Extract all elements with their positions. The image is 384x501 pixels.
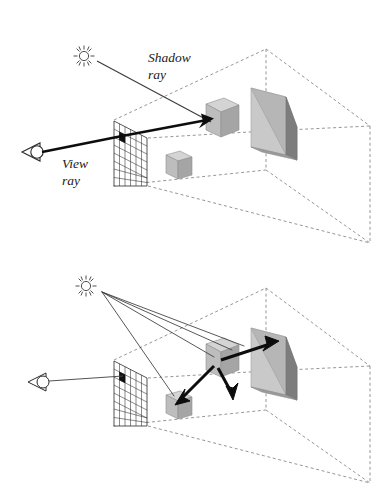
sun-disc [81,281,90,290]
view-ray-label-line2: ray [62,173,80,188]
image-plane-grid [114,361,147,426]
scene-box-dashed [113,288,370,483]
shadow-ray-2-to-cube-large [102,292,232,350]
sun-icon [76,276,97,297]
box-edge-floor-right [266,410,370,483]
wedge-side-face [286,97,297,160]
wedge-side-face [286,337,297,400]
cube-small [166,151,192,179]
panel-global-illumination [0,250,384,501]
box-edge-floor-right [266,170,370,243]
cube-small-right-face [178,157,192,179]
box-edge-top-left [114,288,266,360]
view-ray-line [49,376,123,381]
shadow-ray-3-to-cube-top [102,292,214,357]
shadow-ray-label-line2: ray [148,67,166,82]
eye-icon [22,143,43,161]
eye-icon [28,373,49,391]
box-edge-mid-left [148,131,266,138]
shadow-ray-1-to-wedge [102,292,244,346]
diagram-global-illumination [0,250,384,501]
wedge-prism [251,88,297,160]
sun-rays [76,276,97,297]
box-edge-floor-front [148,426,370,483]
box-edge-floor-front [148,186,370,243]
view-ray-segment-eye-to-plane [42,136,122,152]
bounce-ray-to-cube-small [182,366,214,398]
image-plane-grid [114,121,147,186]
diagram-direct-illumination: Shadow ray View ray [0,0,384,250]
panel-direct-illumination: Shadow ray View ray [0,0,384,250]
eye-pupil [31,146,43,158]
view-ray-segment-plane-to-object [122,120,207,136]
view-ray-label-line1: View [62,156,88,171]
shadow-ray-label-line1: Shadow [148,50,191,65]
sun-icon [74,46,95,67]
figure-container: Shadow ray View ray [0,0,384,501]
cube-small [166,391,192,419]
sun-disc [79,51,88,60]
eye-pupil [37,376,49,388]
sun-rays [74,46,95,67]
